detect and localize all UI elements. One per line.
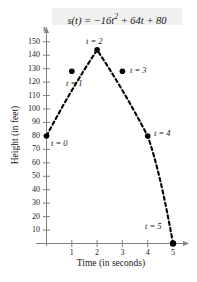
y-tick-label-140: 140 — [16, 50, 40, 60]
y-tick-label-10: 10 — [16, 225, 40, 235]
data-point-t1 — [69, 69, 75, 75]
y-axis-title: Height (in feet) — [10, 80, 20, 190]
data-point-t5 — [170, 240, 176, 246]
x-tick-label-2: 2 — [91, 248, 103, 258]
x-tick-label-3: 3 — [116, 248, 128, 258]
point-annotation-t2: t = 2 — [86, 36, 103, 46]
data-point-t2 — [94, 47, 100, 53]
data-point-t3 — [120, 69, 126, 75]
y-tick-label-30: 30 — [16, 198, 40, 208]
projectile-motion-chart: s(t) = −16t2 + 64t + 80 s — [0, 0, 197, 282]
x-axis-title: Time (in seconds) — [36, 258, 186, 268]
x-tick-label-4: 4 — [142, 248, 154, 258]
point-annotation-t1: t = 1 — [66, 78, 83, 88]
point-annotation-t4: t = 4 — [154, 128, 171, 138]
y-axis-arrowhead — [44, 27, 49, 33]
x-tick-label-5: 5 — [167, 248, 179, 258]
data-point-t0 — [44, 133, 50, 139]
point-annotation-t0: t = 0 — [51, 138, 68, 148]
x-tick-label-1: 1 — [66, 248, 78, 258]
y-tick-label-20: 20 — [16, 212, 40, 222]
y-tick-label-150: 150 — [16, 37, 40, 47]
point-annotation-t3: t = 3 — [130, 65, 147, 75]
point-annotation-t5: t = 5 — [145, 221, 162, 231]
data-point-t4 — [145, 133, 151, 139]
x-axis-arrowhead — [183, 241, 189, 246]
y-tick-label-130: 130 — [16, 64, 40, 74]
